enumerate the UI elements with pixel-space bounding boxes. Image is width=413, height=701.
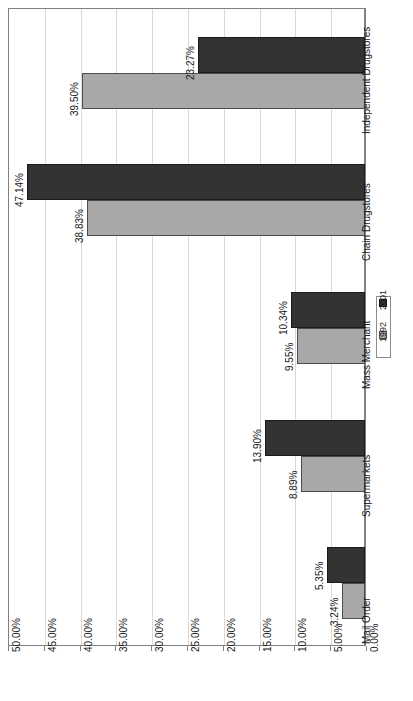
value-axis-tick	[44, 646, 45, 651]
bar-value-label: 13.90%	[253, 429, 263, 463]
bar-value-label: 47.14%	[15, 173, 25, 207]
value-axis-tick	[223, 646, 224, 651]
value-axis-tick	[330, 646, 331, 651]
bar-2001	[198, 37, 365, 73]
category-axis-label: Chain Drugstores	[362, 184, 372, 262]
bar-chart: 2001 1992 50.00%45.00%40.00%35.00%30.00%…	[0, 0, 413, 701]
value-axis-tick-label: 40.00%	[84, 618, 94, 652]
value-axis-tick-label: 15.00%	[263, 618, 273, 652]
bar-1992	[297, 328, 365, 364]
value-axis-tick-label: 20.00%	[227, 618, 237, 652]
value-axis-tick-label: 50.00%	[12, 618, 22, 652]
value-axis-tick-label: 5.00%	[334, 624, 344, 652]
bar-value-label: 39.50%	[70, 82, 80, 116]
value-axis-tick	[8, 646, 9, 651]
bar-value-label: 9.55%	[285, 343, 295, 371]
legend-label-1992: 1992	[379, 322, 388, 342]
value-axis-tick	[187, 646, 188, 651]
bar-2001	[27, 164, 365, 200]
value-axis-tick-label: 10.00%	[298, 618, 308, 652]
bar-value-label: 8.89%	[289, 470, 299, 498]
bar-1992	[87, 200, 365, 236]
category-axis-label: Supermarkets	[362, 454, 372, 516]
value-axis-tick	[259, 646, 260, 651]
value-axis-tick	[366, 646, 367, 651]
value-axis-tick-label: 45.00%	[48, 618, 58, 652]
value-axis-tick-label: 35.00%	[119, 618, 129, 652]
bar-value-label: 23.27%	[186, 46, 196, 80]
plot-area	[8, 8, 366, 646]
bar-value-label: 10.34%	[279, 301, 289, 335]
gridline	[45, 9, 46, 645]
value-axis-tick	[80, 646, 81, 651]
bar-2001	[265, 420, 365, 456]
bar-value-label: 5.35%	[315, 562, 325, 590]
bar-1992	[82, 73, 365, 109]
chart-legend: 2001 1992	[376, 296, 391, 358]
bar-value-label: 38.83%	[75, 209, 85, 243]
value-axis-tick	[294, 646, 295, 651]
category-axis-label: Independent Drugstores	[362, 27, 372, 134]
value-axis-tick	[151, 646, 152, 651]
value-axis-tick	[115, 646, 116, 651]
value-axis-tick-label: 30.00%	[155, 618, 165, 652]
bar-1992	[301, 456, 365, 492]
value-axis-tick-label: 25.00%	[191, 618, 201, 652]
legend-label-2001: 2001	[379, 290, 388, 310]
bar-2001	[291, 292, 365, 328]
bar-2001	[327, 547, 365, 583]
category-axis-label: Mail Order	[362, 598, 372, 645]
category-axis-label: Mass Merchant	[362, 321, 372, 389]
bar-value-label: 3.24%	[330, 598, 340, 626]
